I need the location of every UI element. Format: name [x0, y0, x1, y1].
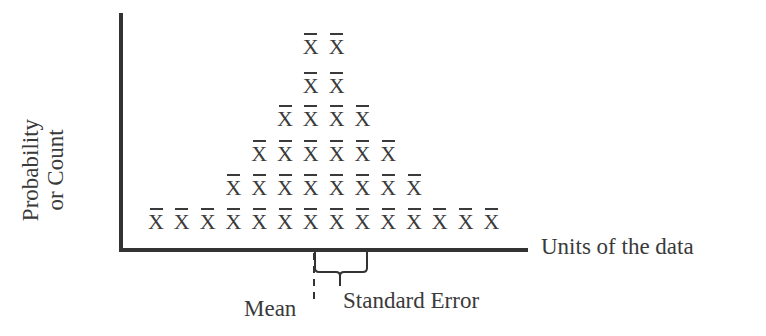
symbol-x: X — [303, 209, 319, 234]
sample-mean-symbol: X — [327, 140, 347, 165]
sample-mean-symbol: X — [301, 174, 321, 199]
symbol-x: X — [251, 175, 267, 200]
sample-mean-symbol: X — [327, 105, 347, 130]
sample-mean-symbol: X — [275, 140, 295, 165]
symbol-x: X — [329, 73, 345, 98]
sample-mean-symbol: X — [198, 208, 218, 233]
sample-mean-symbol: X — [249, 140, 269, 165]
sample-mean-symbol: X — [404, 208, 424, 233]
symbol-x: X — [329, 175, 345, 200]
symbol-x: X — [174, 209, 190, 234]
symbol-x: X — [458, 209, 474, 234]
sample-mean-symbol: X — [378, 174, 398, 199]
symbol-x: X — [251, 209, 267, 234]
symbol-x: X — [380, 175, 396, 200]
symbol-x: X — [303, 175, 319, 200]
sample-mean-symbol: X — [275, 105, 295, 130]
symbol-x: X — [432, 209, 448, 234]
symbol-x: X — [303, 34, 319, 59]
symbol-x: X — [225, 175, 241, 200]
sample-mean-symbol: X — [301, 72, 321, 97]
sample-mean-symbol: X — [146, 208, 166, 233]
sample-mean-symbol: X — [481, 208, 501, 233]
symbol-x: X — [303, 73, 319, 98]
sample-mean-symbol: X — [378, 140, 398, 165]
sample-mean-symbol: X — [404, 174, 424, 199]
sampling-distribution-diagram: Probability or Count Units of the data M… — [0, 0, 766, 336]
sample-mean-symbol: X — [172, 208, 192, 233]
sample-mean-symbol: X — [352, 208, 372, 233]
sample-mean-symbol: X — [249, 208, 269, 233]
symbol-x: X — [380, 141, 396, 166]
symbol-x: X — [303, 106, 319, 131]
sample-mean-symbol: X — [327, 72, 347, 97]
sample-mean-symbol: X — [456, 208, 476, 233]
sample-mean-symbol: X — [352, 174, 372, 199]
symbol-x: X — [354, 209, 370, 234]
symbol-x: X — [329, 209, 345, 234]
symbol-x: X — [277, 209, 293, 234]
symbol-x: X — [148, 209, 164, 234]
sample-mean-symbol: X — [275, 174, 295, 199]
symbol-x: X — [354, 106, 370, 131]
symbol-x: X — [329, 106, 345, 131]
symbol-x: X — [303, 141, 319, 166]
sample-mean-symbol: X — [301, 140, 321, 165]
symbol-x: X — [406, 175, 422, 200]
symbol-x: X — [277, 106, 293, 131]
sample-mean-symbol: X — [327, 174, 347, 199]
symbol-x: X — [225, 209, 241, 234]
symbol-x: X — [406, 209, 422, 234]
sample-mean-symbol: X — [223, 208, 243, 233]
sample-mean-symbol: X — [352, 105, 372, 130]
sample-mean-symbol: X — [275, 208, 295, 233]
sample-means-stack: XXXXXXXXXXXXXXXXXXXXXXXXXXXXXXXXXXXX — [0, 0, 766, 336]
symbol-x: X — [483, 209, 499, 234]
sample-mean-symbol: X — [301, 208, 321, 233]
symbol-x: X — [277, 175, 293, 200]
sample-mean-symbol: X — [301, 105, 321, 130]
sample-mean-symbol: X — [430, 208, 450, 233]
sample-mean-symbol: X — [301, 33, 321, 58]
symbol-x: X — [329, 34, 345, 59]
sample-mean-symbol: X — [378, 208, 398, 233]
symbol-x: X — [354, 141, 370, 166]
sample-mean-symbol: X — [223, 174, 243, 199]
sample-mean-symbol: X — [327, 33, 347, 58]
symbol-x: X — [380, 209, 396, 234]
sample-mean-symbol: X — [249, 174, 269, 199]
symbol-x: X — [329, 141, 345, 166]
symbol-x: X — [251, 141, 267, 166]
symbol-x: X — [200, 209, 216, 234]
sample-mean-symbol: X — [352, 140, 372, 165]
symbol-x: X — [354, 175, 370, 200]
sample-mean-symbol: X — [327, 208, 347, 233]
symbol-x: X — [277, 141, 293, 166]
